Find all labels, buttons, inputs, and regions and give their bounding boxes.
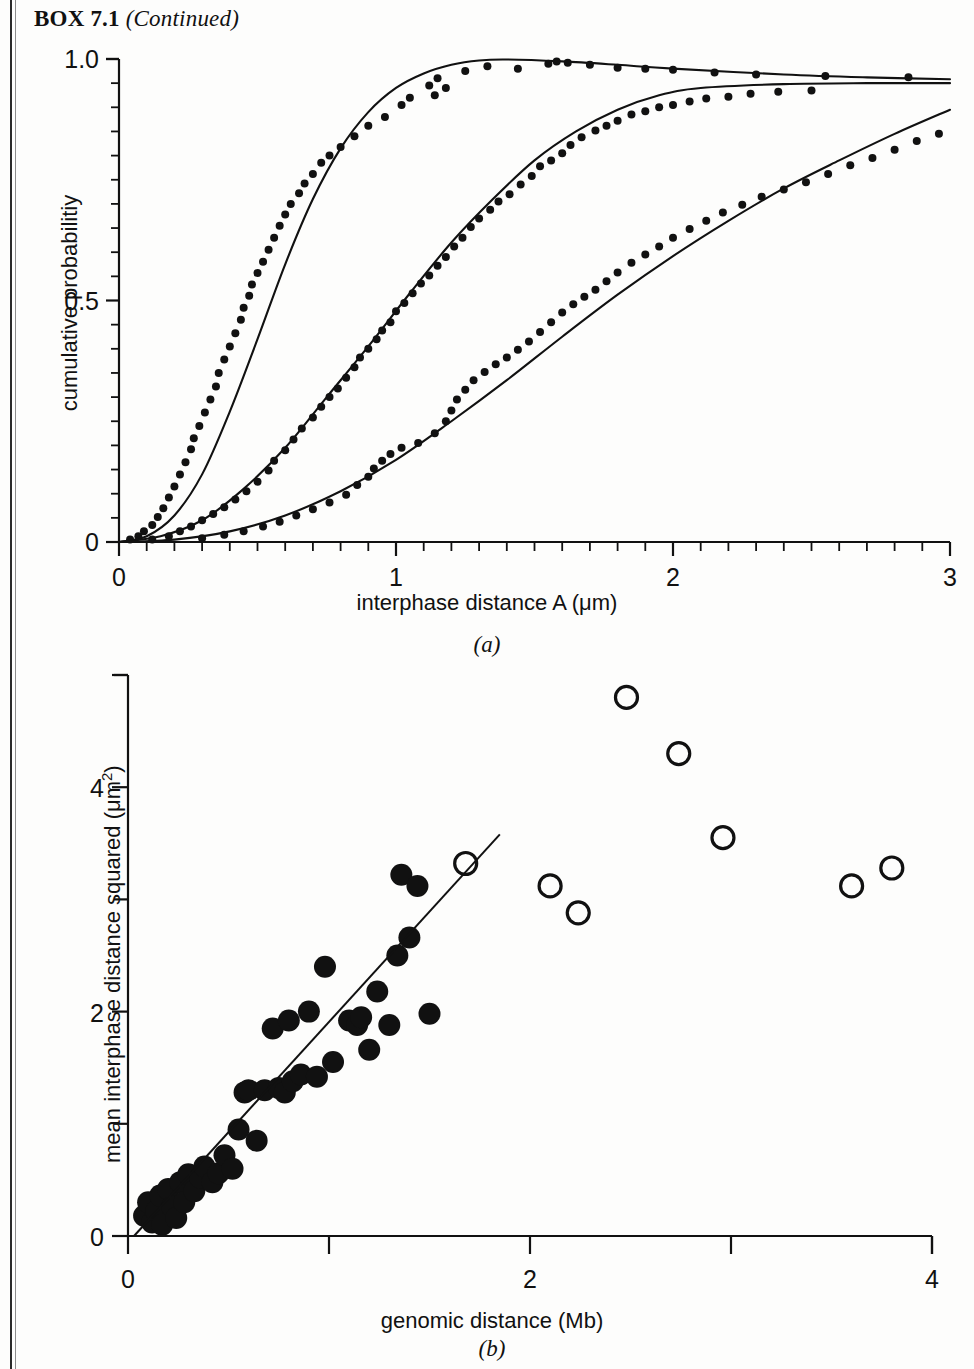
panel-b-xlabel: genomic distance (Mb) <box>342 1308 642 1334</box>
panel-b-xtick-label: 2 <box>523 1265 537 1293</box>
panel-b-ylabel-sup: 2 <box>98 773 115 781</box>
panel-b-axes: 024024 <box>90 675 939 1293</box>
panel-b-regression-line <box>134 834 500 1236</box>
figure-page: BOX 7.1 (Continued) 00.51.00123 cumulati… <box>0 0 974 1369</box>
panel-b-ylabel-main: mean interphase distance squared (μm <box>100 781 125 1163</box>
panel-b-xtick-label: 4 <box>925 1265 939 1293</box>
panel-b-open-points <box>455 686 903 923</box>
panel-b-plot: 024024 <box>0 0 974 1369</box>
panel-b-filled-points <box>133 864 440 1236</box>
panel-b-ylabel-close: ) <box>100 765 125 772</box>
panel-b-xtick-label: 0 <box>121 1265 135 1293</box>
panel-b-ylabel: mean interphase distance squared (μm2) <box>98 684 126 1244</box>
panel-b-label: (b) <box>432 1336 552 1362</box>
